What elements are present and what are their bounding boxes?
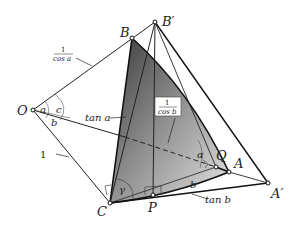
angle-b: b: [51, 117, 57, 128]
angle-gamma: γ: [119, 184, 125, 195]
label-O: O: [17, 103, 28, 118]
spherical-triangle-face: [110, 38, 229, 203]
point-B: [130, 36, 134, 40]
arrow-one: [56, 154, 69, 157]
angle-alpha: α: [197, 149, 204, 160]
angle-a: a: [40, 104, 46, 115]
sec-a-numerator: 1: [61, 46, 65, 54]
line-O-tan-a: [33, 110, 125, 137]
point-Aprime: [266, 181, 270, 185]
label-sec-a: 1 cos a: [53, 46, 73, 63]
sec-a-denominator: cos a: [53, 55, 71, 63]
label-tan-b: tan b: [205, 194, 231, 205]
label-tan-a: tan a: [85, 112, 111, 123]
label-one: 1: [40, 149, 46, 160]
label-sec-b: 1 cos b: [155, 97, 181, 116]
sec-b-denominator: cos b: [158, 108, 177, 116]
label-Q: Q: [216, 148, 227, 163]
arrow-sec-a: [76, 58, 92, 66]
angle-b-at-A: b: [190, 179, 196, 190]
point-O: [31, 108, 35, 112]
point-P: [151, 193, 155, 197]
label-C: C: [97, 204, 107, 219]
spherical-triangle-diagram: O B B′ C P Q A A′ a c b γ α b 1 tan a ta…: [0, 0, 299, 229]
label-Bprime: B′: [161, 14, 175, 29]
label-Aprime: A′: [270, 186, 283, 201]
right-angle-C: [105, 185, 111, 195]
point-Bprime: [153, 20, 157, 24]
label-A: A: [233, 156, 243, 171]
point-A: [227, 170, 231, 174]
angle-c: c: [56, 104, 62, 115]
point-Q: [214, 165, 218, 169]
label-B: B: [119, 25, 130, 40]
sec-b-numerator: 1: [165, 99, 169, 107]
point-C: [108, 201, 112, 205]
label-P: P: [147, 200, 157, 215]
